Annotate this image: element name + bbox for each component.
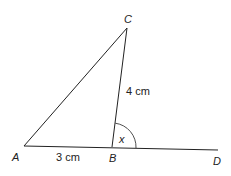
line-AC — [24, 28, 127, 146]
point-label-c: C — [124, 14, 132, 25]
length-label-bc: 4 cm — [126, 86, 150, 97]
triangle-diagram — [0, 0, 231, 176]
angle-label-x: x — [119, 134, 125, 145]
length-label-ab: 3 cm — [56, 152, 80, 163]
line-AD — [24, 146, 218, 150]
point-label-b: B — [109, 153, 116, 164]
point-label-a: A — [12, 152, 19, 163]
line-BC — [112, 28, 127, 147]
point-label-d: D — [213, 156, 221, 167]
